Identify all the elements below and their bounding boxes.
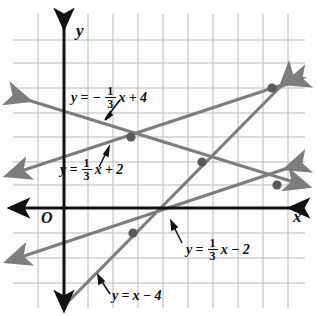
eq4-variable: x: [133, 289, 140, 303]
equation-label-3: y = 1 3 x − 2: [186, 237, 250, 262]
eq2-numerator: 1: [82, 157, 92, 169]
eq4-operator: −: [142, 289, 153, 303]
eq2-operator: +: [104, 163, 114, 177]
eq2-variable: x: [95, 163, 102, 177]
point-3-3: [126, 132, 135, 141]
grid-lines: [13, 14, 305, 308]
eq1-numerator: 1: [105, 85, 115, 97]
equation-label-1: y = − 1 3 x + 4: [71, 85, 147, 110]
eq2-lhs: y: [60, 163, 66, 177]
y-axis-label: y: [76, 22, 84, 39]
eq3-denominator: 3: [208, 249, 218, 262]
eq1-lhs: y: [71, 91, 77, 105]
eq3-operator: −: [230, 243, 241, 257]
coordinate-plane: [0, 0, 317, 316]
point-9-5: [267, 83, 276, 92]
eq3-equals: =: [194, 243, 204, 257]
eq1-variable: x: [119, 91, 126, 105]
callout-arrow-eq3: [171, 221, 182, 243]
eq4-constant: 4: [155, 289, 162, 303]
graph-figure: y x O y = − 1 3 x + 4 y = 1 3 x + 2 y = …: [0, 0, 317, 316]
eq1-equals: =: [79, 91, 89, 105]
eq1-fraction: 1 3: [105, 85, 115, 110]
point-3-n1: [128, 228, 137, 237]
x-axis-label: x: [293, 208, 302, 225]
point-6-2: [197, 157, 206, 166]
eq1-operator: +: [128, 91, 138, 105]
eq4-equals: =: [120, 289, 130, 303]
eq3-numerator: 1: [208, 237, 218, 249]
eq1-sign: −: [92, 91, 103, 105]
equation-label-2: y = 1 3 x + 2: [60, 157, 123, 182]
callout-arrow-eq4: [98, 275, 110, 294]
eq4-lhs: y: [112, 289, 118, 303]
eq3-fraction: 1 3: [208, 237, 218, 262]
eq3-lhs: y: [186, 243, 192, 257]
point-9-1: [272, 180, 281, 189]
eq3-variable: x: [221, 243, 228, 257]
eq2-constant: 2: [116, 163, 123, 177]
eq2-fraction: 1 3: [82, 157, 92, 182]
eq1-constant: 4: [140, 91, 147, 105]
eq2-denominator: 3: [82, 169, 92, 182]
origin-label: O: [41, 210, 53, 226]
equation-label-4: y = x − 4: [112, 289, 162, 303]
eq3-constant: 2: [243, 243, 250, 257]
eq2-equals: =: [68, 163, 78, 177]
eq1-denominator: 3: [105, 97, 115, 110]
